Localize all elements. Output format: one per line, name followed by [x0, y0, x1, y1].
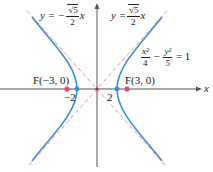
- vertex-left-label: −2: [64, 92, 76, 103]
- eq-term2-num: y²: [163, 47, 172, 58]
- focus-right-text: F(3, 0): [125, 74, 155, 86]
- hyperbola-figure: [0, 0, 213, 172]
- asymptote-neg-num: √5: [67, 4, 77, 15]
- x-axis-label: x: [204, 83, 209, 94]
- asymptote-pos-num: √5: [128, 4, 138, 15]
- asymptote-neg-fraction: √52: [66, 6, 78, 27]
- vertex-right-label: 2: [107, 92, 113, 103]
- asymptote-neg-den: 2: [66, 17, 78, 27]
- eq-rhs: = 1: [176, 50, 190, 62]
- asymptote-pos-den: 2: [127, 17, 139, 27]
- asymptote-negative-label: y = −√52x: [40, 6, 85, 27]
- hyperbola-equation: x²4 − y²5 = 1: [140, 47, 190, 68]
- eq-term1-den: 4: [141, 58, 150, 68]
- asymptote-neg-prefix: y = −: [40, 9, 65, 21]
- focus-left-text: F(−3, 0): [33, 74, 69, 86]
- y-axis-arrow-icon: [95, 3, 100, 9]
- focus-right-label: F(3, 0): [125, 75, 155, 86]
- asymptote-pos-suffix: x: [141, 9, 146, 21]
- asymptote-neg-suffix: x: [80, 9, 85, 21]
- asymptote-pos-prefix: y =: [111, 9, 126, 21]
- x-axis-arrow-icon: [196, 87, 202, 92]
- focus-right: [124, 86, 129, 91]
- focus-left-label: F(−3, 0): [33, 75, 69, 86]
- asymptote-pos-fraction: √52: [127, 6, 139, 27]
- eq-term2: y²5: [163, 47, 172, 68]
- eq-term1-num: x²: [141, 47, 150, 58]
- eq-term1: x²4: [141, 47, 150, 68]
- eq-term2-den: 5: [163, 58, 172, 68]
- vertex-right: [115, 87, 120, 92]
- eq-minus: −: [153, 50, 159, 62]
- asymptote-positive-label: y =√52x: [111, 6, 145, 27]
- origin-point: [95, 87, 98, 90]
